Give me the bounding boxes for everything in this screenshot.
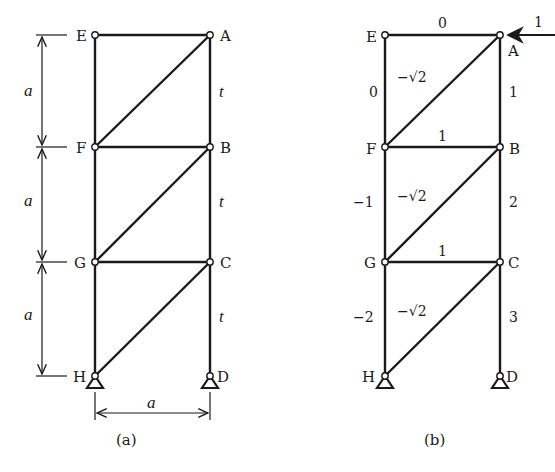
member-label-CD: t [219, 307, 225, 326]
node-label-G: G [74, 254, 86, 272]
force-AB: 1 [509, 84, 518, 100]
node-label-H: H [362, 368, 375, 386]
force-GC: 1 [438, 243, 447, 259]
truss-diagram: E A F B G C H D t t t a a a a ( [0, 0, 555, 472]
load-value: 1 [534, 14, 543, 30]
figure-b: 1 E A F B G C H D 0 0 −√2 1 1 −1 −√2 2 1… [353, 14, 555, 449]
truss-members-a [95, 35, 210, 376]
joint-A [207, 32, 213, 38]
node-label-E: E [366, 28, 377, 46]
vertical-dimension [36, 35, 67, 376]
joint-E [92, 32, 98, 38]
force-CD: 3 [509, 309, 518, 325]
force-BC: 2 [509, 194, 518, 210]
node-label-F: F [366, 140, 376, 158]
node-label-C: C [220, 254, 231, 272]
joint-H [92, 373, 98, 379]
joint-E [382, 32, 388, 38]
force-CH: −√2 [397, 303, 427, 319]
dimension-label-panel-1: a [24, 81, 33, 100]
dimension-label-panel-2: a [24, 191, 33, 210]
caption-b: (b) [424, 431, 445, 449]
member-FA [95, 35, 210, 147]
member-GB [95, 147, 210, 262]
node-label-A: A [507, 42, 519, 60]
dimension-label-width: a [147, 393, 156, 412]
force-AF: −√2 [397, 69, 427, 85]
joint-B [497, 144, 503, 150]
force-EA: 0 [438, 15, 447, 31]
force-GH: −2 [353, 309, 374, 325]
joint-C [497, 259, 503, 265]
node-label-A: A [219, 27, 231, 45]
node-label-D: D [506, 368, 518, 386]
node-label-G: G [364, 254, 376, 272]
joint-C [207, 259, 213, 265]
node-label-H: H [73, 368, 86, 386]
node-label-B: B [220, 139, 231, 157]
member-label-BC: t [219, 192, 225, 211]
joint-F [382, 144, 388, 150]
figure-a: E A F B G C H D t t t a a a a ( [24, 27, 231, 449]
member-HC [385, 262, 500, 376]
node-label-F: F [76, 139, 86, 157]
force-BG: −√2 [397, 188, 427, 204]
member-HC [95, 262, 210, 376]
node-label-B: B [509, 140, 520, 158]
truss-members-b [385, 35, 500, 376]
caption-a: (a) [116, 431, 137, 449]
joint-A [497, 32, 503, 38]
member-label-AB: t [219, 82, 225, 101]
node-label-E: E [76, 27, 87, 45]
joint-F [92, 144, 98, 150]
joint-D [207, 373, 213, 379]
node-label-C: C [508, 254, 519, 272]
joint-G [382, 259, 388, 265]
dimension-label-panel-3: a [24, 305, 33, 324]
force-FB: 1 [438, 128, 447, 144]
node-label-D: D [217, 368, 229, 386]
joint-B [207, 144, 213, 150]
joint-H [382, 373, 388, 379]
joint-G [92, 259, 98, 265]
joint-D [497, 373, 503, 379]
force-FG: −1 [353, 194, 374, 210]
force-EF: 0 [369, 84, 378, 100]
